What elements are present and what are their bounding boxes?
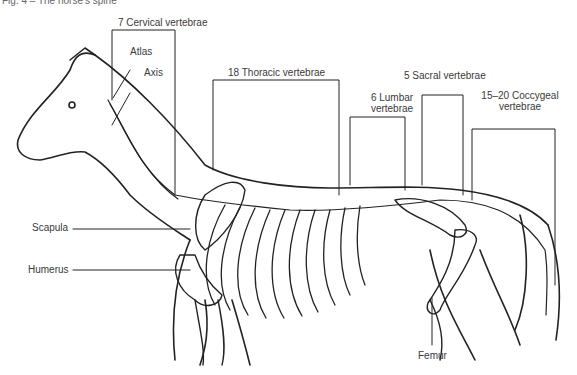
label-humerus: Humerus: [28, 264, 69, 275]
ribs: [206, 205, 365, 318]
label-femur: Femur: [418, 350, 447, 361]
label-lumbar-line1: 6 Lumbar: [357, 92, 427, 103]
label-atlas: Atlas: [130, 46, 152, 57]
label-coccygeal-line2: vertebrae: [475, 101, 565, 112]
label-cervical-vertebrae: 7 Cervical vertebrae: [118, 17, 207, 28]
label-axis: Axis: [144, 67, 163, 78]
spine: [108, 100, 547, 315]
label-sacral-vertebrae: 5 Sacral vertebrae: [404, 70, 486, 81]
label-lumbar-vertebrae: 6 Lumbar vertebrae: [357, 92, 427, 114]
label-coccygeal-vertebrae: 15–20 Coccygeal vertebrae: [475, 90, 565, 112]
label-scapula: Scapula: [32, 222, 68, 233]
foreleg-bones: [176, 255, 224, 365]
label-coccygeal-line1: 15–20 Coccygeal: [475, 90, 565, 101]
hindleg-bones: [395, 199, 476, 360]
horse-skeleton-illustration: [0, 0, 577, 375]
scapula: [196, 182, 245, 250]
label-thoracic-vertebrae: 18 Thoracic vertebrae: [228, 67, 325, 78]
label-lumbar-line2: vertebrae: [357, 103, 427, 114]
